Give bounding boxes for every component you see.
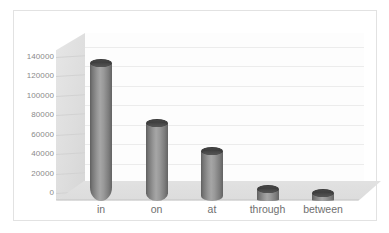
- bar-cap-inner: [148, 122, 166, 127]
- bar-at[interactable]: [201, 147, 223, 201]
- x-axis-category-label: at: [182, 203, 242, 215]
- bar-between[interactable]: [312, 189, 334, 201]
- chart-container: 140000120000100000800006000040000200000 …: [0, 0, 389, 233]
- bar-cap-inner: [203, 150, 221, 155]
- bar-cap-inner: [259, 188, 277, 193]
- x-axis-category-label: between: [293, 203, 353, 215]
- bar-body: [146, 123, 168, 201]
- x-axis-labels: inonatthroughbetween: [14, 203, 378, 223]
- bar-on[interactable]: [146, 119, 168, 201]
- bars-group: [14, 11, 378, 222]
- x-axis-category-label: in: [71, 203, 131, 215]
- bar-through[interactable]: [257, 185, 279, 201]
- bar-cap-ellipse: [90, 59, 112, 67]
- bar-in[interactable]: [90, 59, 112, 201]
- chart-frame: 140000120000100000800006000040000200000 …: [13, 10, 377, 221]
- bar-body: [201, 151, 223, 201]
- bar-cap-inner: [314, 192, 332, 197]
- bar-body: [90, 63, 112, 201]
- x-axis-category-label: on: [127, 203, 187, 215]
- x-axis-category-label: through: [238, 203, 298, 215]
- bar-cap-inner: [92, 62, 110, 67]
